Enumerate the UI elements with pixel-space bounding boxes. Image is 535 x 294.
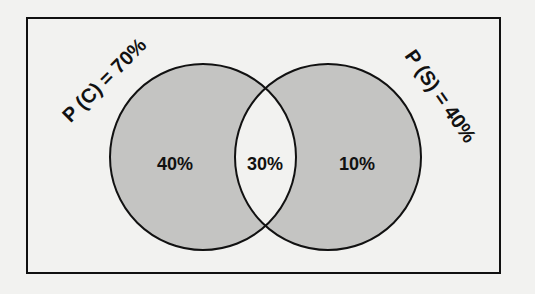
region-s-only-label: 10% [339,154,375,174]
venn-diagram: 40% 30% 10% P (C) = 70% P (S) = 40% [0,0,535,294]
region-intersection-label: 30% [247,154,283,174]
region-c-only-label: 40% [157,154,193,174]
